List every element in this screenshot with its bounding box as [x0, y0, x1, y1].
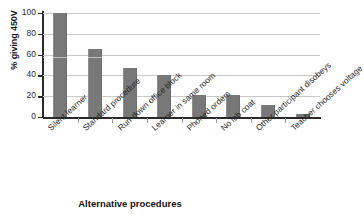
bar — [53, 13, 67, 117]
y-axis-tick-label-text: 0 — [2, 112, 36, 121]
gridline — [43, 55, 320, 56]
x-axis-tick-mark — [251, 118, 252, 123]
y-axis-tick-label-text: 80 — [2, 29, 36, 38]
gridline — [43, 34, 320, 35]
x-axis-tick-mark — [147, 118, 148, 123]
y-axis-tick-label: 0 — [0, 112, 36, 122]
y-axis-tick-label: 80 — [0, 29, 36, 39]
scan-artifact-line — [43, 57, 320, 58]
y-axis-tick-label-text: 100 — [2, 8, 36, 17]
y-axis-tick-label-text: 20 — [2, 91, 36, 100]
x-axis-tick-mark — [285, 118, 286, 123]
y-axis-tick-label-text: 60 — [2, 50, 36, 59]
y-axis-tick-label: 60 — [0, 50, 36, 60]
y-axis-tick-label-text: 40 — [2, 70, 36, 79]
x-axis-tick-mark — [216, 118, 217, 123]
x-axis-tick-mark — [182, 118, 183, 123]
x-axis-tick-mark — [112, 118, 113, 123]
y-axis-tick-label: 40 — [0, 70, 36, 80]
y-axis-tick-label: 100 — [0, 8, 36, 18]
gridline — [43, 13, 320, 14]
y-axis-tick-label: 20 — [0, 91, 36, 101]
x-axis-title: Alternative procedures — [0, 198, 260, 209]
x-axis-tick-mark — [78, 118, 79, 123]
